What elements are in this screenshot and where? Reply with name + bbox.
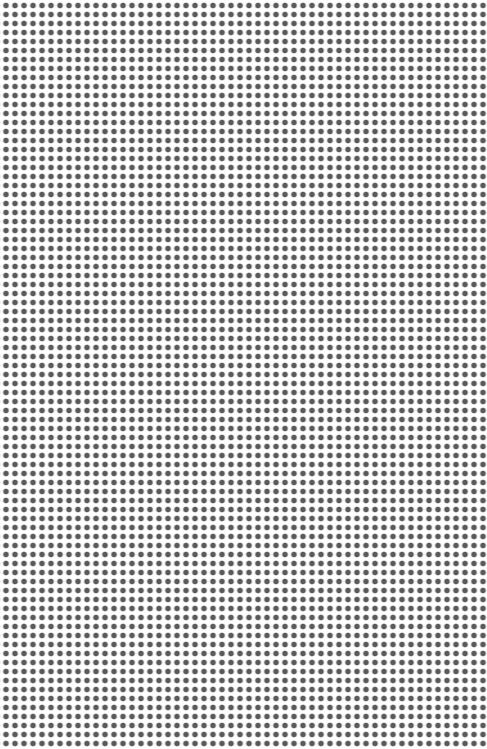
dot-grid-pattern: [0, 0, 487, 749]
